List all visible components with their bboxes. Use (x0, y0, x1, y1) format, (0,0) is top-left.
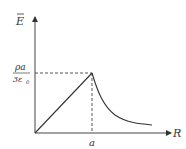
x-tick-label: a (89, 137, 95, 148)
linear-segment (35, 73, 92, 133)
x-axis-label: R (172, 127, 181, 140)
y-tick-numerator: ρa (14, 62, 26, 72)
y-axis-label: E (15, 15, 24, 28)
field-vs-radius-diagram: E R a ρa 3ε 0 (0, 0, 186, 149)
y-tick-denominator: 3ε (13, 75, 22, 84)
decay-curve (92, 73, 152, 125)
y-tick-denominator-sub: 0 (26, 79, 30, 85)
